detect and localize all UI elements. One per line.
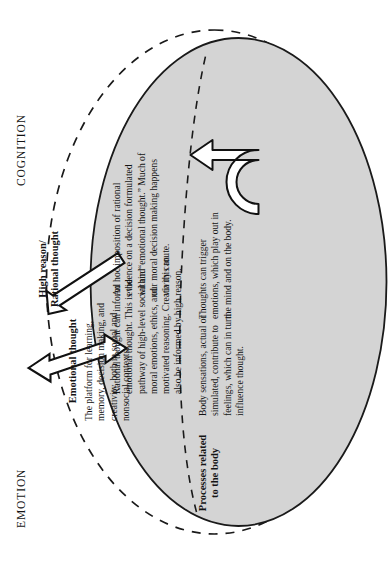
label-cognition: COGNITION: [14, 114, 28, 186]
label-high-reason: High reason/ Rational thought: [36, 204, 60, 334]
heading-emotional-thought: Emotional thought: [66, 301, 78, 421]
text-ad-hoc-imposition: Ad hoc imposition of rational evidence o…: [110, 150, 171, 296]
label-emotion: EMOTION: [14, 469, 28, 528]
figure-canvas: COGNITION EMOTION High reason/ Rational …: [0, 0, 389, 564]
heading-processes-related-to-body: Processes related to the body: [196, 425, 220, 521]
text-thoughts-trigger-emotions: Thoughts can trigger emotions, which pla…: [196, 201, 233, 319]
